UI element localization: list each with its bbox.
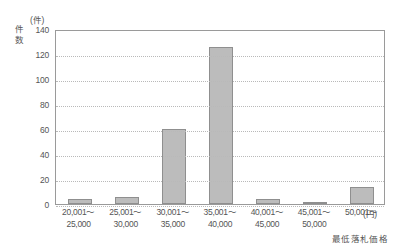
x-axis-tick-label: 45,001～50,000 (291, 207, 338, 230)
x-axis-tick-line-1: 50,001～ (338, 207, 385, 219)
x-axis-unit-label: (円) (363, 207, 377, 219)
gridline (56, 56, 384, 57)
gridline (56, 106, 384, 107)
gridline (56, 81, 384, 82)
bar[interactable] (115, 197, 139, 205)
y-axis-tick-label: 100 (23, 75, 49, 85)
bar[interactable] (162, 129, 186, 204)
x-axis-tick-label: 40,001～45,000 (244, 207, 291, 230)
y-axis-tick-label: 20 (23, 175, 49, 185)
x-axis-tick-line-2: 45,000 (244, 219, 291, 231)
x-axis-tick-line-2: 35,000 (149, 219, 196, 231)
x-axis-title: 最低落札価格 (332, 232, 388, 244)
x-axis-tick-label: 30,001～35,000 (149, 207, 196, 230)
y-axis-tick-label: 0 (23, 200, 49, 210)
x-axis-tick-label: 35,001～40,000 (196, 207, 243, 230)
x-axis-tick-line-2: 25,000 (55, 219, 102, 231)
x-axis-tick-line-1: 20,001～ (55, 207, 102, 219)
y-axis-tick-label: 60 (23, 125, 49, 135)
x-axis-tick-line-1: 40,001～ (244, 207, 291, 219)
x-axis-tick-line-2: 30,000 (102, 219, 149, 231)
x-axis-tick-line-1: 35,001～ (196, 207, 243, 219)
x-axis-tick-line-1: 45,001～ (291, 207, 338, 219)
gridline (56, 156, 384, 157)
y-axis-tick-label: 80 (23, 100, 49, 110)
x-axis-tick-line-2: 40,000 (196, 219, 243, 231)
y-axis-unit-label: (件) (30, 13, 44, 25)
x-axis-tick-label: 20,001～25,000 (55, 207, 102, 230)
y-axis-tick-label: 40 (23, 150, 49, 160)
bar[interactable] (256, 199, 280, 204)
x-axis-tick-label: 25,001～30,000 (102, 207, 149, 230)
bar-chart: (件) 件 数 020406080100120140 20,001～25,000… (0, 0, 406, 251)
gridline (56, 131, 384, 132)
plot-area (55, 30, 385, 205)
x-axis-tick-line-1: 30,001～ (149, 207, 196, 219)
y-axis-title-char-2: 数 (14, 35, 25, 46)
y-axis-tick-label: 120 (23, 50, 49, 60)
x-axis-tick-label: 50,001～ (338, 207, 385, 219)
bar[interactable] (303, 202, 327, 204)
y-axis-tick-label: 140 (23, 25, 49, 35)
x-axis-tick-line-2: 50,000 (291, 219, 338, 231)
x-axis-tick-line-1: 25,001～ (102, 207, 149, 219)
gridline (56, 181, 384, 182)
bar[interactable] (350, 187, 374, 205)
bar[interactable] (68, 199, 92, 204)
